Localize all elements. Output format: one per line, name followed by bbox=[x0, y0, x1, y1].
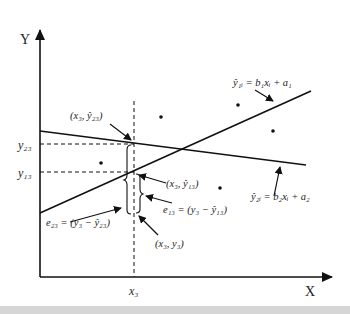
data-point bbox=[236, 103, 240, 107]
y-axis-label: Y bbox=[20, 32, 30, 47]
bottom-border bbox=[0, 306, 350, 314]
label-error-13: e₁₃ = (y₃ − ŷ₁₃) bbox=[163, 204, 227, 216]
label-error-23: e₂₃ = (y₃ − ŷ₂₃) bbox=[46, 217, 110, 229]
arrow-yhat13 bbox=[139, 175, 166, 183]
arrow-error13 bbox=[146, 196, 172, 203]
data-point bbox=[218, 186, 222, 190]
label-line2-equation: ŷ₂ᵢ = b₂xᵢ + a₂ bbox=[250, 191, 310, 202]
regression-line-2 bbox=[40, 131, 306, 165]
data-point bbox=[159, 115, 163, 119]
x-axis-label-final: X bbox=[305, 284, 315, 299]
label-point-yhat13: (x₃, ŷ₁₃) bbox=[166, 178, 199, 190]
label-point-y3: (x₃, y₃) bbox=[155, 238, 184, 250]
data-point bbox=[99, 161, 103, 165]
data-point bbox=[271, 129, 275, 133]
error-23-brace bbox=[124, 145, 131, 214]
arrow-line1-eq bbox=[255, 90, 273, 101]
arrow-yhat23 bbox=[110, 124, 131, 140]
arrow-y3 bbox=[139, 216, 158, 235]
y13-tick-label: y₁₃ bbox=[17, 166, 32, 180]
y23-tick-label: y₂₃ bbox=[17, 138, 32, 152]
label-line1-equation: ŷ₁ᵢ = b₁xᵢ + a₁ bbox=[232, 77, 292, 88]
label-point-yhat23: (x₃, ŷ₂₃) bbox=[70, 110, 103, 122]
regression-diagram: Y y₂₃ y₁₃ x₃ X (x₃, ŷ₂₃) (x₃, ŷ₁₃) e₁₃ =… bbox=[0, 0, 350, 314]
error-13-brace bbox=[136, 174, 143, 213]
x3-tick-label: x₃ bbox=[128, 284, 139, 298]
